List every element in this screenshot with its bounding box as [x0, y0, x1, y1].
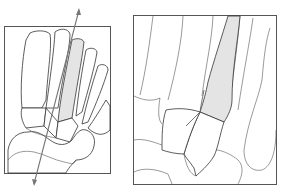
- medial-cuneiform: [21, 108, 46, 128]
- axis-arrow-top-icon: [76, 8, 81, 15]
- intermediate-cuneiform: [44, 108, 58, 138]
- first-metatarsal: [21, 31, 50, 108]
- left-panel: [5, 8, 111, 186]
- third-ray-outline-b: [238, 18, 253, 110]
- calcaneus-talus: [8, 130, 95, 173]
- right-panel: [134, 16, 277, 185]
- first-metatarsal-outline-b: [168, 16, 183, 100]
- axis-arrow-bottom-icon: [32, 179, 37, 186]
- first-metatarsal-outline-a: [140, 16, 153, 95]
- cuneiform-outline-a: [134, 96, 160, 100]
- fourth-ray-outline: [244, 28, 276, 170]
- cuneiform-outline-b: [159, 98, 162, 124]
- talus-outline: [134, 169, 172, 184]
- figure-illustration: [0, 0, 281, 193]
- foot-anatomy-figure: [0, 0, 281, 193]
